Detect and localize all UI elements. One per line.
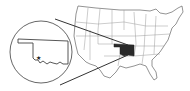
locator-map: United States Oklahoma: [0, 0, 190, 91]
star-marker-icon: ★: [36, 54, 41, 61]
us-map: [74, 6, 183, 80]
